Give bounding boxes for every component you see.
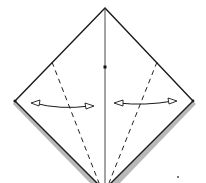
stray-mark <box>177 176 179 178</box>
right-corner-dot <box>192 100 195 103</box>
paper-diamond-outline <box>15 8 193 183</box>
center-mark-dot <box>104 66 107 69</box>
left-corner-dot <box>13 99 16 102</box>
